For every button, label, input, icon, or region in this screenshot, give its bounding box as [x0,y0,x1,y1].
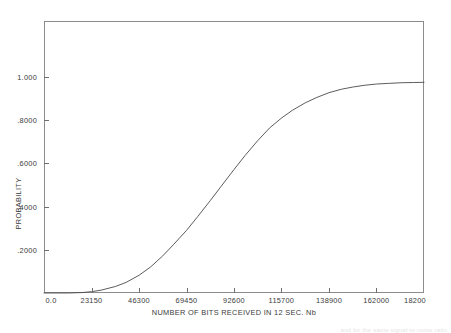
x-tick-mark [234,288,235,293]
y-tick-label: 1.000 [17,73,37,82]
y-tick-mark [44,163,49,164]
x-tick-label: 162000 [363,296,389,305]
y-tick-mark [44,207,49,208]
x-tick-label: 23150 [81,296,103,305]
y-tick-mark [44,250,49,251]
y-tick-mark [44,77,49,78]
probability-curve [44,82,424,293]
x-tick-label: 46300 [128,296,150,305]
x-tick-label: 0.0 [45,296,56,305]
x-tick-label: 138900 [316,296,342,305]
x-tick-mark [281,288,282,293]
y-tick-label: .8000 [17,116,37,125]
probability-curve-layer [44,21,424,293]
y-axis-title: PROBABILITY [14,159,23,249]
x-axis-title: NUMBER OF BITS RECEIVED IN 12 SEC. Nb [44,308,424,317]
x-tick-mark [376,288,377,293]
x-tick-mark [187,288,188,293]
scan-artifact-text: and for the same signal-to-noise ratio. [340,327,449,333]
y-tick-mark [44,120,49,121]
x-tick-label: 69450 [176,296,198,305]
x-tick-label: 115700 [269,296,295,305]
chart-figure: 0.02315046300694509260011570013890016200… [0,0,451,333]
x-tick-label: 18200 [404,296,426,305]
x-tick-mark [139,288,140,293]
x-tick-label: 92600 [223,296,245,305]
x-tick-mark [329,288,330,293]
x-tick-mark [92,288,93,293]
